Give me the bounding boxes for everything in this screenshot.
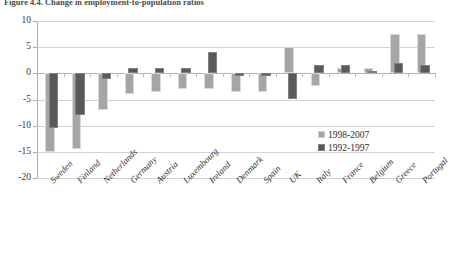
- y-axis-tick-label: -15: [5, 147, 31, 156]
- y-axis-tick-label: -5: [5, 95, 31, 104]
- x-axis-tick: [117, 73, 118, 77]
- bar-1992-1997-Germany: [128, 68, 138, 73]
- bar-1992-1997-Denmark: [235, 73, 245, 76]
- x-axis-tick: [382, 73, 383, 77]
- y-axis-tick: [33, 47, 37, 48]
- bar-1998-2007-Denmark: [231, 73, 241, 91]
- figure-caption: Figure 4.4. Change in employment-to-popu…: [4, 0, 434, 7]
- x-axis-tick: [435, 73, 436, 77]
- legend-label: 1998-2007: [328, 130, 369, 140]
- legend-item-recent: 1998-2007: [318, 128, 369, 141]
- y-axis-tick: [33, 126, 37, 127]
- gridline: [37, 47, 435, 48]
- bar-1992-1997-UK: [288, 73, 298, 99]
- x-axis-tick: [196, 73, 197, 77]
- gridline: [37, 21, 435, 22]
- bar-1992-1997-France: [341, 65, 351, 73]
- x-axis-tick: [329, 73, 330, 77]
- x-axis-tick: [276, 73, 277, 77]
- x-axis-tick: [90, 73, 91, 77]
- y-axis-tick-label: -20: [5, 173, 31, 182]
- x-axis-tick: [408, 73, 409, 77]
- bar-1992-1997-Greece: [394, 63, 404, 73]
- y-axis-tick-label: 5: [5, 42, 31, 51]
- x-axis-tick: [223, 73, 224, 77]
- gridline: [37, 100, 435, 101]
- legend-label: 1992-1997: [328, 143, 369, 153]
- gridline: [37, 126, 435, 127]
- bar-1992-1997-Luxembourg: [181, 68, 191, 73]
- bar-1992-1997-Sweden: [49, 73, 59, 128]
- bar-1992-1997-Finland: [75, 73, 85, 115]
- bar-1998-2007-Ireland: [204, 73, 214, 89]
- y-axis-tick: [33, 21, 37, 22]
- y-axis-tick-label: 0: [5, 68, 31, 77]
- x-axis-tick: [302, 73, 303, 77]
- y-axis-tick: [33, 152, 37, 153]
- bar-1998-2007-Italy: [311, 73, 321, 86]
- y-axis-tick-label: 10: [5, 16, 31, 25]
- bar-1998-2007-Luxembourg: [178, 73, 188, 89]
- legend-item-earlier: 1992-1997: [318, 141, 369, 154]
- x-axis-tick: [64, 73, 65, 77]
- x-axis-category-labels: SwedenFinlandNetherlandsGermanyAustriaLu…: [37, 178, 435, 255]
- x-axis-tick: [170, 73, 171, 77]
- plot-area: [37, 21, 435, 178]
- bar-1992-1997-Spain: [261, 73, 271, 76]
- chart-legend: 1998-2007 1992-1997: [318, 128, 369, 154]
- bar-1998-2007-Austria: [151, 73, 161, 91]
- bar-1992-1997-Ireland: [208, 52, 218, 73]
- bar-1992-1997-Austria: [155, 68, 165, 73]
- y-axis-tick: [33, 73, 37, 74]
- bar-1998-2007-UK: [284, 47, 294, 73]
- x-axis-tick: [355, 73, 356, 77]
- bar-1992-1997-Belgium: [367, 71, 377, 74]
- bar-1992-1997-Italy: [314, 65, 324, 73]
- bar-1998-2007-Netherlands: [98, 73, 108, 110]
- legend-swatch-icon: [318, 131, 325, 138]
- x-axis-tick: [249, 73, 250, 77]
- y-axis-tick: [33, 100, 37, 101]
- bar-1992-1997-Portugal: [420, 65, 430, 73]
- legend-swatch-icon: [318, 144, 325, 151]
- y-axis-tick-labels: 1050-5-10-15-20: [0, 21, 31, 178]
- bar-1992-1997-Netherlands: [102, 73, 112, 78]
- bar-1998-2007-Germany: [125, 73, 135, 94]
- bar-1998-2007-Spain: [258, 73, 268, 91]
- gridline: [37, 152, 435, 153]
- y-axis-tick-label: -10: [5, 121, 31, 130]
- x-axis-tick: [143, 73, 144, 77]
